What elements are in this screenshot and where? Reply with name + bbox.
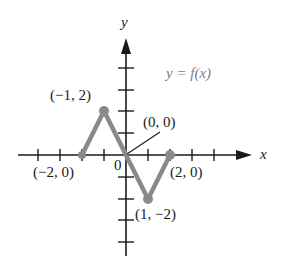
y-axis-label: y (119, 14, 128, 30)
x-axis (18, 150, 252, 160)
label-point-1-m2: (1, −2) (135, 206, 176, 223)
label-point-m2-0: (−2, 0) (33, 164, 74, 181)
function-graph: y x y = f(x) 0 (−1, 2) (0, 0) (−2, 0) (2… (0, 0, 285, 274)
point-1-m2 (143, 194, 153, 204)
label-point-2-0: (2, 0) (170, 164, 203, 181)
function-label: y = f(x) (164, 65, 211, 82)
point-m1-2 (99, 106, 109, 116)
point-m2-0 (78, 151, 86, 159)
y-axis-arrow-icon (121, 38, 131, 54)
label-point-m1-2: (−1, 2) (50, 87, 91, 104)
origin-leader-line (127, 132, 160, 154)
origin-label: 0 (114, 157, 122, 173)
point-2-0 (165, 150, 175, 160)
x-axis-label: x (259, 146, 267, 162)
label-point-0-0: (0, 0) (143, 114, 176, 131)
x-axis-arrow-icon (236, 150, 252, 160)
